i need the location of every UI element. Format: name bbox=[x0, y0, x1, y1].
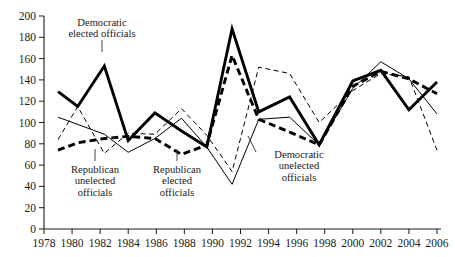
annotation-line-3: officials bbox=[52, 187, 138, 198]
annotation-republican-elected-officials: Republican elected officials bbox=[137, 164, 217, 198]
annotation-line-2: unelected bbox=[52, 175, 138, 186]
x-axis-tick-label: 1982 bbox=[89, 237, 112, 249]
y-axis-tick-label: 40 bbox=[25, 180, 37, 192]
annotation-line-3: officials bbox=[137, 187, 217, 198]
series-line-republican-unelected-officials bbox=[58, 67, 437, 171]
y-axis-ticks bbox=[39, 16, 44, 229]
annotation-democratic-elected-officials: Democratic elected officials bbox=[54, 17, 150, 40]
line-chart: 020406080100120140160180200 197819801982… bbox=[0, 0, 455, 257]
x-axis-tick-label: 2002 bbox=[369, 237, 392, 249]
x-axis-tick-label: 1978 bbox=[33, 237, 56, 249]
x-axis-tick-label: 1994 bbox=[257, 237, 280, 249]
y-axis-tick-label: 0 bbox=[30, 223, 36, 235]
x-axis-tick-label: 2006 bbox=[426, 237, 449, 249]
x-axis-tick-label: 2004 bbox=[397, 237, 420, 249]
y-axis-tick-label: 100 bbox=[19, 117, 37, 129]
x-axis-tick-label: 1984 bbox=[117, 237, 140, 249]
annotation-line-2: elected bbox=[137, 175, 217, 186]
y-axis-tick-label: 60 bbox=[25, 159, 37, 171]
annotation-line-2: unelected bbox=[251, 160, 347, 171]
y-axis-tick-label: 180 bbox=[19, 31, 37, 43]
x-axis-tick-label: 1986 bbox=[145, 237, 168, 249]
annotation-democratic-unelected-officials: Democratic unelected officials bbox=[251, 149, 347, 183]
x-axis-tick-label: 2000 bbox=[341, 237, 364, 249]
annotation-line-1: Democratic bbox=[251, 149, 347, 160]
x-axis-tick-label: 1990 bbox=[201, 237, 224, 249]
y-axis-tick-label: 160 bbox=[19, 53, 37, 65]
y-axis-tick-label: 140 bbox=[19, 74, 37, 86]
data-series-group bbox=[58, 29, 437, 184]
annotation-line-2: elected officials bbox=[54, 28, 150, 39]
y-axis-tick-label: 80 bbox=[25, 138, 37, 150]
x-axis-tick-label: 1988 bbox=[173, 237, 196, 249]
annotation-line-1: Republican bbox=[52, 164, 138, 175]
annotation-line-1: Democratic bbox=[54, 17, 150, 28]
y-axis-tick-label: 200 bbox=[19, 10, 37, 22]
x-axis-tick-labels: 1978198019821984198619881990199219941996… bbox=[33, 237, 449, 249]
annotation-line-3: officials bbox=[251, 172, 347, 183]
y-axis-tick-label: 20 bbox=[25, 202, 37, 214]
series-line-democratic-elected-officials bbox=[58, 29, 437, 147]
x-axis-tick-label: 1996 bbox=[285, 237, 308, 249]
y-axis-tick-labels: 020406080100120140160180200 bbox=[19, 10, 37, 235]
annotation-line-1: Republican bbox=[137, 164, 217, 175]
y-axis-tick-label: 120 bbox=[19, 95, 37, 107]
x-axis-tick-label: 1980 bbox=[61, 237, 84, 249]
annotation-republican-unelected-officials: Republican unelected officials bbox=[52, 164, 138, 198]
x-axis-tick-label: 1998 bbox=[313, 237, 336, 249]
x-axis-ticks bbox=[44, 229, 437, 234]
x-axis-tick-label: 1992 bbox=[229, 237, 252, 249]
